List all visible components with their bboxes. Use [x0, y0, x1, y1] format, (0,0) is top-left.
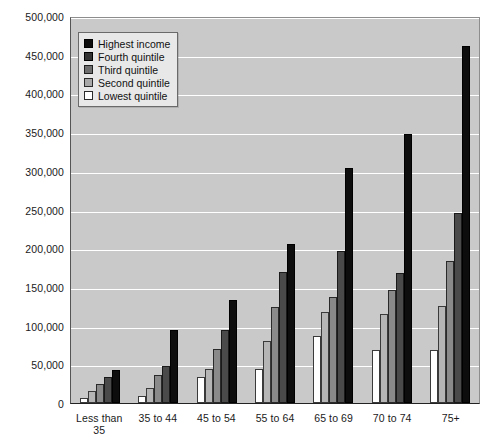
bar [221, 330, 229, 403]
x-tick-label: 45 to 54 [187, 412, 246, 436]
y-tick-label: 0 [58, 399, 64, 410]
bar [80, 398, 88, 403]
bar [154, 375, 162, 403]
y-tick-label: 450,000 [25, 50, 64, 61]
bar [430, 350, 438, 403]
bar [321, 312, 329, 403]
legend-item-label: Third quintile [98, 64, 158, 76]
bar [112, 370, 120, 403]
bar [337, 251, 345, 403]
legend-item-label: Fourth quintile [98, 51, 165, 63]
y-tick-label: 300,000 [25, 166, 64, 177]
bar [96, 384, 104, 403]
bar [279, 272, 287, 403]
x-tick-label: Less than 35 [70, 412, 129, 436]
y-tick-label: 200,000 [25, 244, 64, 255]
legend-item-label: Highest income [98, 38, 170, 50]
bar-group [246, 18, 304, 403]
bar [197, 377, 205, 403]
bar [329, 297, 337, 403]
legend-item-label: Second quintile [98, 77, 170, 89]
bar-group [421, 18, 479, 403]
y-tick-label: 250,000 [25, 205, 64, 216]
y-tick-label: 350,000 [25, 128, 64, 139]
bar [170, 330, 178, 403]
bar-chart: 500,000450,000400,000350,000300,000250,0… [0, 0, 486, 440]
bar-group [304, 18, 362, 403]
legend-swatch-icon [84, 78, 93, 87]
y-tick-label: 500,000 [25, 12, 64, 23]
y-tick-label: 150,000 [25, 282, 64, 293]
bar [446, 261, 454, 403]
legend-swatch-icon [84, 39, 93, 48]
bar [462, 46, 470, 403]
bar [88, 391, 96, 403]
legend-item-label: Lowest quintile [98, 90, 167, 102]
bar [104, 377, 112, 403]
y-axis: 500,000450,000400,000350,000300,000250,0… [0, 0, 68, 440]
x-tick-label: 55 to 64 [246, 412, 305, 436]
bar [454, 213, 462, 403]
bar [205, 369, 213, 403]
bar [287, 244, 295, 403]
bar [404, 134, 412, 403]
x-tick-label: 75+ [421, 412, 480, 436]
bar [138, 396, 146, 403]
x-tick-label: 35 to 44 [129, 412, 188, 436]
legend-item: Second quintile [84, 76, 170, 89]
bar [313, 336, 321, 403]
bar [263, 341, 271, 403]
bar [146, 388, 154, 403]
bar [396, 273, 404, 403]
legend-item: Highest income [84, 37, 170, 50]
legend-swatch-icon [84, 65, 93, 74]
bar-group [362, 18, 420, 403]
x-tick-label: 70 to 74 [363, 412, 422, 436]
y-tick-label: 50,000 [31, 360, 64, 371]
bar-group [188, 18, 246, 403]
y-tick-label: 100,000 [25, 321, 64, 332]
bar [255, 369, 263, 403]
legend-item: Fourth quintile [84, 50, 170, 63]
bar [372, 350, 380, 403]
bar [345, 168, 353, 403]
x-axis: Less than 3535 to 4445 to 5455 to 6465 t… [70, 412, 480, 436]
legend-swatch-icon [84, 91, 93, 100]
bar [229, 300, 237, 403]
bar [380, 314, 388, 403]
x-tick-label: 65 to 69 [304, 412, 363, 436]
bar [162, 366, 170, 403]
legend-swatch-icon [84, 52, 93, 61]
y-tick-label: 400,000 [25, 89, 64, 100]
legend-item: Lowest quintile [84, 89, 170, 102]
bar [438, 306, 446, 403]
legend-item: Third quintile [84, 63, 170, 76]
bar [388, 290, 396, 403]
bar [271, 307, 279, 403]
bar [213, 349, 221, 403]
legend: Highest incomeFourth quintileThird quint… [78, 32, 178, 107]
